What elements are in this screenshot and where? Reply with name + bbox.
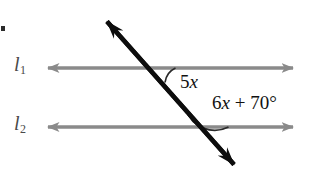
angle-label-6x-70: 6x + 70° [212,92,277,114]
angle-6x-variable: x [222,92,230,113]
angle-6x-constant: 70 [250,92,269,113]
line-label-l2-letter: l [14,112,20,134]
geometry-figure: l1 l2 5x 6x + 70° [0,0,313,185]
angle-5x-coefficient: 5 [180,71,190,92]
degree-symbol-icon: ° [269,92,277,113]
line-label-l1-letter: l [14,53,20,75]
line-label-l1-subscript: 1 [20,63,27,77]
angle-5x-variable: x [190,71,198,92]
angle-label-5x: 5x [180,71,198,93]
line-label-l1: l1 [14,53,26,78]
line-label-l2: l2 [14,112,26,137]
line-label-l2-subscript: 2 [20,122,27,136]
angle-arc-5x [165,68,176,83]
angle-6x-operator: + [235,92,246,113]
angle-6x-coefficient: 6 [212,92,222,113]
corner-marker-artifact [1,26,5,31]
